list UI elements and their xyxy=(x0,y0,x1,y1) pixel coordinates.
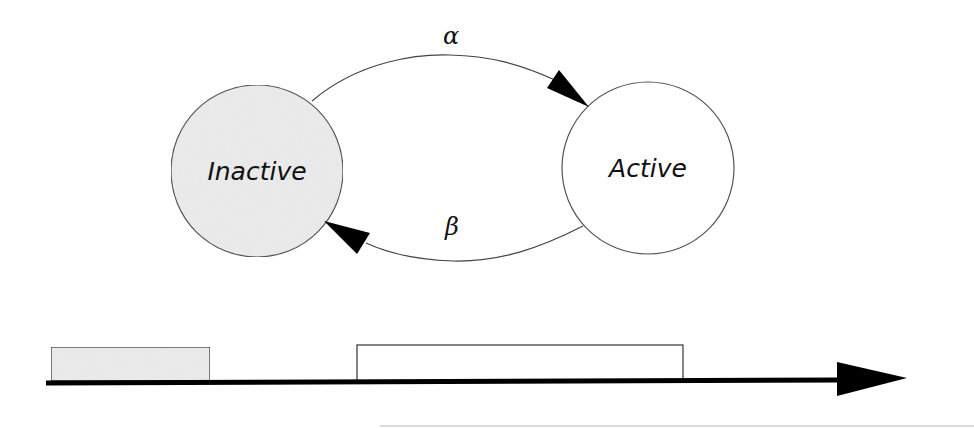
time-axis-arrowhead-icon xyxy=(837,362,907,396)
time-axis xyxy=(46,380,840,383)
alpha-arc xyxy=(312,55,555,101)
transition-beta: β xyxy=(324,213,583,261)
alpha-arrowhead-icon xyxy=(547,70,589,107)
active-label: Active xyxy=(607,154,687,183)
alpha-label: α xyxy=(443,22,459,50)
transition-alpha: α xyxy=(312,22,589,107)
state-inactive: Inactive xyxy=(171,85,343,257)
beta-label: β xyxy=(444,213,459,241)
timeline-active-segment xyxy=(357,345,683,381)
state-transition-diagram: Inactive Active α β xyxy=(0,0,974,428)
beta-arrowhead-icon xyxy=(324,221,370,254)
inactive-label: Inactive xyxy=(207,157,306,186)
timeline xyxy=(46,345,907,396)
state-active: Active xyxy=(562,82,734,254)
timeline-inactive-segment xyxy=(51,347,210,381)
beta-arc xyxy=(366,226,583,261)
